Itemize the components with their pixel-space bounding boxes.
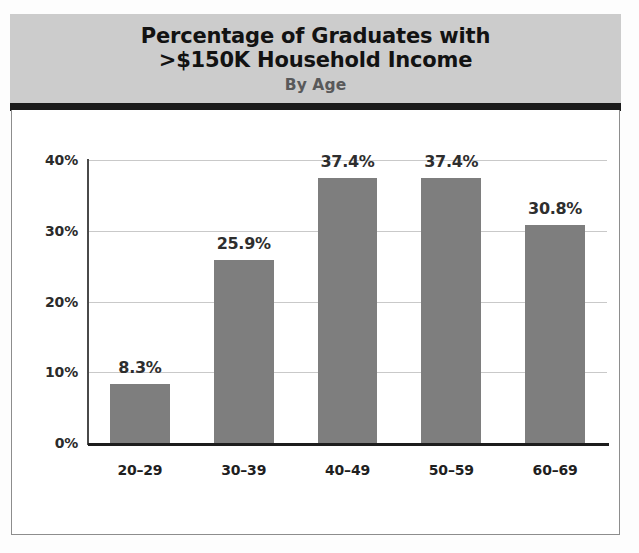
chart-title-line-1: Percentage of Graduates with <box>141 25 490 49</box>
chart-figure: Percentage of Graduates with >$150K Hous… <box>0 0 639 553</box>
bar <box>110 384 170 443</box>
chart-title-line-2: >$150K Household Income <box>141 49 490 73</box>
x-axis-line <box>88 443 609 446</box>
bar-value-label: 8.3% <box>88 358 192 377</box>
y-axis-tick-label: 40% <box>14 152 78 168</box>
y-axis-tick-labels: 0%10%20%30%40% <box>12 0 78 553</box>
chart-subtitle: By Age <box>285 76 347 94</box>
y-axis-tick-label: 10% <box>14 364 78 380</box>
x-axis-tick-label: 40–49 <box>296 462 400 478</box>
bar <box>214 260 274 443</box>
x-axis-tick-label: 50–59 <box>399 462 503 478</box>
x-axis-tick-label: 30–39 <box>192 462 296 478</box>
bar <box>525 225 585 443</box>
x-axis-tick-label: 20–29 <box>88 462 192 478</box>
bar-value-label: 37.4% <box>296 152 400 171</box>
bar-value-label: 37.4% <box>399 152 503 171</box>
y-axis-tick-label: 30% <box>14 223 78 239</box>
y-axis-line <box>87 159 89 445</box>
bar <box>318 178 378 443</box>
chart-title: Percentage of Graduates with >$150K Hous… <box>141 25 490 73</box>
chart-title-band: Percentage of Graduates with >$150K Hous… <box>10 14 621 103</box>
y-axis-tick-label: 0% <box>14 435 78 451</box>
x-axis-tick-label: 60–69 <box>503 462 607 478</box>
bar-value-label: 30.8% <box>503 199 607 218</box>
y-axis-tick-label: 20% <box>14 294 78 310</box>
bar-value-label: 25.9% <box>192 234 296 253</box>
bar <box>421 178 481 443</box>
plot-area: 8.3%25.9%37.4%37.4%30.8% <box>88 160 607 443</box>
